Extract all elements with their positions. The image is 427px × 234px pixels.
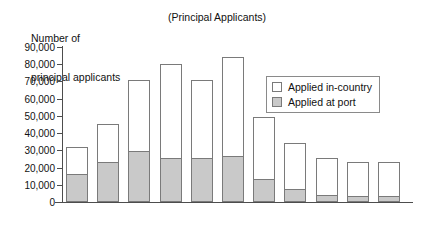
bar-segment-applied-in-country[interactable] xyxy=(160,64,182,159)
bar-segment-applied-at-port[interactable] xyxy=(128,151,150,202)
bar-segment-applied-at-port[interactable] xyxy=(347,196,369,202)
bar-chart: Number of principal applicants (Principa… xyxy=(0,0,427,234)
legend-item[interactable]: Applied at port xyxy=(272,96,372,108)
bar-segment-applied-in-country[interactable] xyxy=(316,158,338,196)
y-tick-label: 50,000 xyxy=(24,110,55,121)
legend-item-label: Applied at port xyxy=(288,96,356,108)
y-tick-label: 0 xyxy=(49,197,55,208)
chart-legend: Applied in-countryApplied at port xyxy=(266,76,380,113)
bar-segment-applied-at-port[interactable] xyxy=(253,179,275,202)
y-tick-mark xyxy=(57,81,62,82)
bar-segment-applied-at-port[interactable] xyxy=(160,158,182,202)
bar-segment-applied-in-country[interactable] xyxy=(128,80,150,152)
bar-segment-applied-at-port[interactable] xyxy=(284,189,306,202)
chart-subtitle: (Principal Applicants) xyxy=(168,11,266,24)
y-tick-mark xyxy=(57,150,62,151)
bar-segment-applied-in-country[interactable] xyxy=(378,162,400,197)
bar-segment-applied-at-port[interactable] xyxy=(316,195,338,202)
y-tick-mark xyxy=(57,185,62,186)
y-tick-label: 10,000 xyxy=(24,179,55,190)
bar-segment-applied-in-country[interactable] xyxy=(66,147,88,175)
y-tick-mark xyxy=(57,99,62,100)
x-axis-line xyxy=(55,202,413,203)
white-square-icon xyxy=(272,82,282,92)
y-tick-label: 20,000 xyxy=(24,162,55,173)
y-tick-mark xyxy=(57,168,62,169)
gray-square-icon xyxy=(272,97,282,107)
bar-segment-applied-in-country[interactable] xyxy=(347,162,369,197)
y-tick-mark xyxy=(57,116,62,117)
bar-segment-applied-at-port[interactable] xyxy=(378,196,400,202)
y-tick-mark xyxy=(57,202,62,203)
legend-item[interactable]: Applied in-country xyxy=(272,81,372,93)
bar-segment-applied-at-port[interactable] xyxy=(222,156,244,203)
bar-segment-applied-in-country[interactable] xyxy=(191,80,213,159)
bar-segment-applied-in-country[interactable] xyxy=(222,57,244,157)
y-tick-mark xyxy=(57,47,62,48)
legend-item-label: Applied in-country xyxy=(288,81,372,93)
bar-segment-applied-in-country[interactable] xyxy=(253,117,275,179)
y-tick-mark xyxy=(57,133,62,134)
y-tick-label: 80,000 xyxy=(24,59,55,70)
bar-segment-applied-in-country[interactable] xyxy=(97,124,119,164)
bar-segment-applied-at-port[interactable] xyxy=(97,162,119,202)
bar-segment-applied-at-port[interactable] xyxy=(66,174,88,202)
bar-segment-applied-in-country[interactable] xyxy=(284,143,306,190)
y-tick-label: 60,000 xyxy=(24,93,55,104)
bar-segment-applied-at-port[interactable] xyxy=(191,158,213,202)
y-tick-label: 70,000 xyxy=(24,76,55,87)
y-tick-mark xyxy=(57,64,62,65)
y-tick-label: 30,000 xyxy=(24,145,55,156)
y-tick-label: 90,000 xyxy=(24,42,55,53)
y-tick-label: 40,000 xyxy=(24,128,55,139)
plot-area: 010,00020,00030,00040,00050,00060,00070,… xyxy=(62,47,411,202)
